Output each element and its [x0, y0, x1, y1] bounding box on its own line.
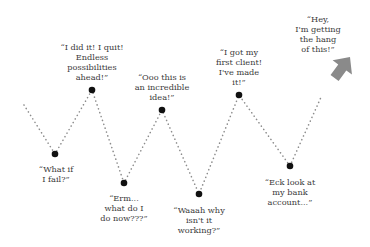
milestone-label: “Erm... what do I do now???”	[100, 193, 147, 223]
milestone-dot	[159, 107, 166, 114]
journey-diagram: “What if I fail?”“I did it! I quit! Endl…	[0, 0, 370, 247]
milestone-label: “Ooo this is an incredible idea!”	[135, 72, 190, 102]
milestone-label: “I did it! I quit! Endless possibilities…	[60, 42, 123, 82]
milestone-dot	[196, 191, 203, 198]
final-label: “Hey, I'm getting the hang of this!”	[295, 14, 341, 54]
milestone-label: “Waaah why isn't it working?”	[173, 205, 225, 235]
milestone-label: “What if I fail?”	[39, 164, 74, 184]
milestone-dot	[121, 180, 128, 187]
milestone-dot	[89, 87, 96, 94]
milestone-dot	[236, 92, 243, 99]
milestone-label: “Eck look at my bank account...”	[265, 177, 316, 207]
milestone-dot	[52, 151, 59, 158]
progress-arrow-icon	[325, 50, 360, 85]
milestone-dot	[287, 163, 294, 170]
milestone-label: “I got my first client! I've made it!”	[216, 47, 262, 87]
